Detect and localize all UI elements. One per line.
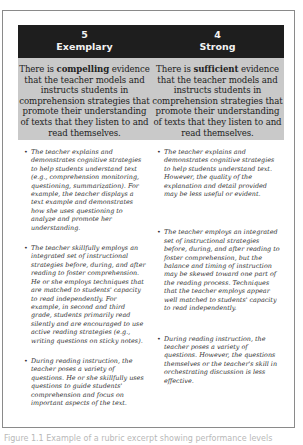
summary-strong: There is sufficient evidence that the te… — [151, 58, 284, 140]
bullet-text: The teacher employs an integrated set of… — [164, 228, 280, 312]
header-strong: 4 Strong — [151, 25, 284, 58]
figure-caption: Figure 1.1 Example of a rubric excerpt s… — [4, 434, 300, 445]
bullet-icon: • — [157, 228, 161, 236]
list-item: •The teacher skillfully employs an integ… — [24, 244, 147, 345]
summary-text: There is — [19, 64, 56, 74]
bullet-icon: • — [157, 335, 161, 343]
list-item: •The teacher employs an integrated set o… — [157, 228, 280, 312]
list-item: •The teacher explains and demonstrates c… — [157, 148, 280, 198]
bullets-exemplary: •The teacher explains and demonstrates c… — [18, 148, 151, 419]
bullet-text: The teacher skillfully employs an integr… — [31, 244, 145, 344]
bullet-icon: • — [24, 244, 28, 252]
summary-text: evidence that the teacher models and ins… — [152, 64, 282, 138]
rubric-header-row: 5 Exemplary 4 Strong — [18, 25, 284, 58]
score-5: 5 — [18, 29, 151, 41]
bullet-text: During reading instruction, the teacher … — [164, 335, 277, 385]
list-item: •The teacher explains and demonstrates c… — [24, 148, 147, 232]
level-strong: Strong — [151, 41, 284, 53]
bullet-icon: • — [24, 357, 28, 365]
level-exemplary: Exemplary — [18, 41, 151, 53]
rubric-bullets-row: •The teacher explains and demonstrates c… — [18, 140, 284, 419]
score-4: 4 — [151, 29, 284, 41]
summary-emphasis: sufficient — [193, 64, 238, 74]
list-item: •During reading instruction, the teacher… — [157, 335, 280, 385]
bullet-text: During reading instruction, the teacher … — [31, 357, 144, 407]
bullet-text: The teacher explains and demonstrates co… — [31, 148, 141, 232]
rubric-figure-frame: 5 Exemplary 4 Strong There is compelling… — [2, 10, 295, 428]
bullets-strong: •The teacher explains and demonstrates c… — [151, 148, 284, 419]
rubric-table: 5 Exemplary 4 Strong There is compelling… — [18, 25, 284, 419]
bullet-text: The teacher explains and demonstrates co… — [164, 148, 274, 198]
summary-emphasis: compelling — [57, 64, 110, 74]
summary-exemplary: There is compelling evidence that the te… — [18, 58, 151, 140]
summary-text: There is — [156, 64, 193, 74]
list-item: •During reading instruction, the teacher… — [24, 357, 147, 407]
header-exemplary: 5 Exemplary — [18, 25, 151, 58]
rubric-summary-row: There is compelling evidence that the te… — [18, 58, 284, 140]
bullet-icon: • — [24, 148, 28, 156]
summary-text: evidence that the teacher models and ins… — [19, 64, 149, 138]
bullet-icon: • — [157, 148, 161, 156]
